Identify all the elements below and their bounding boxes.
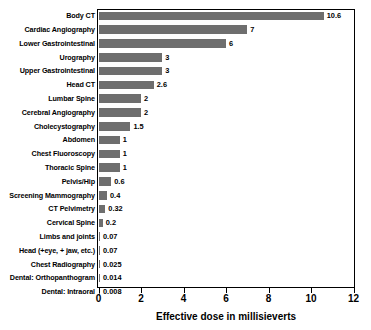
category-label: Abdomen — [0, 136, 95, 143]
bar-row: Head (+eye, + jaw, etc.)0.07 — [0, 244, 371, 258]
bar-row: Chest Radiography0.025 — [0, 257, 371, 271]
bar — [99, 219, 103, 228]
x-tick-label: 0 — [96, 294, 102, 304]
bar-wrapper: 2 — [99, 92, 354, 106]
bar — [99, 108, 142, 117]
bar-row: Abdomen1 — [0, 133, 371, 147]
bar — [99, 150, 120, 159]
value-label: 3 — [165, 67, 169, 74]
category-label: Lower Gastrointestinal — [0, 40, 95, 47]
value-label: 3 — [165, 54, 169, 61]
value-label: 0.014 — [103, 274, 122, 281]
bar-row: Cholecystography1.5 — [0, 119, 371, 133]
value-label: 6 — [229, 40, 233, 47]
bar-chart: Body CT10.6Cardiac Angiography7Lower Gas… — [0, 0, 371, 330]
bar — [99, 205, 106, 214]
category-label: Lumbar Spine — [0, 95, 95, 102]
value-label: 0.2 — [106, 219, 116, 226]
bar-row: Pelvis/Hip0.6 — [0, 175, 371, 189]
bar-row: Head CT2.6 — [0, 78, 371, 92]
value-label: 1.5 — [133, 123, 143, 130]
bar — [99, 25, 248, 34]
bar-row: Cardiac Angiography7 — [0, 23, 371, 37]
bar-row: Dental: Orthopanthogram0.014 — [0, 271, 371, 285]
x-tick-label: 6 — [223, 294, 229, 304]
bar-wrapper: 2.6 — [99, 78, 354, 92]
value-label: 7 — [250, 26, 254, 33]
bar — [99, 67, 163, 76]
bar-wrapper: 1 — [99, 133, 354, 147]
category-label: Cardiac Angiography — [0, 26, 95, 33]
bar-row: Screening Mammography0.4 — [0, 188, 371, 202]
bar-row: Lower Gastrointestinal6 — [0, 37, 371, 51]
value-label: 0.4 — [110, 192, 120, 199]
bar-wrapper: 10.6 — [99, 9, 354, 23]
value-label: 1 — [123, 164, 127, 171]
bar — [99, 260, 101, 269]
category-label: Chest Radiography — [0, 261, 95, 268]
category-label: Cerebral Angiography — [0, 109, 95, 116]
bar — [99, 274, 101, 283]
value-label: 2 — [144, 95, 148, 102]
category-label: Screening Mammography — [0, 192, 95, 199]
bar — [99, 191, 108, 200]
bar-wrapper: 7 — [99, 23, 354, 37]
value-label: 2 — [144, 109, 148, 116]
bar-wrapper: 6 — [99, 37, 354, 51]
x-tick-label: 4 — [181, 294, 187, 304]
category-label: Body CT — [0, 12, 95, 19]
bar — [99, 246, 101, 255]
bar-wrapper: 0.014 — [99, 271, 354, 285]
category-label: Chest Fluoroscopy — [0, 150, 95, 157]
category-label: Upper Gastrointestinal — [0, 67, 95, 74]
value-label: 0.025 — [103, 261, 122, 268]
bar-row: Upper Gastrointestinal3 — [0, 64, 371, 78]
category-label: Dental: Orthopanthogram — [0, 274, 95, 281]
bar-wrapper: 3 — [99, 64, 354, 78]
value-label: 0.6 — [114, 178, 124, 185]
bar-row: Lumbar Spine2 — [0, 92, 371, 106]
x-tick-label: 2 — [138, 294, 144, 304]
category-label: Head (+eye, + jaw, etc.) — [0, 247, 95, 254]
bar-wrapper: 1.5 — [99, 119, 354, 133]
bar — [99, 122, 131, 131]
value-label: 2.6 — [157, 81, 167, 88]
bar — [99, 39, 227, 48]
bar-wrapper: 0.6 — [99, 175, 354, 189]
category-label: Limbs and joints — [0, 233, 95, 240]
bar-wrapper: 0.2 — [99, 216, 354, 230]
category-label: Thoracic Spine — [0, 164, 95, 171]
bar-row: Urography3 — [0, 50, 371, 64]
bar — [99, 163, 120, 172]
bar — [99, 12, 324, 21]
x-tick-label: 12 — [348, 294, 359, 304]
bar-wrapper: 0.32 — [99, 202, 354, 216]
value-label: 1 — [123, 136, 127, 143]
bar — [99, 94, 142, 103]
x-axis-title: Effective dose in millisieverts — [97, 312, 355, 322]
bar-wrapper: 1 — [99, 147, 354, 161]
bar-row: CT Pelvimetry0.32 — [0, 202, 371, 216]
bar-wrapper: 0.4 — [99, 188, 354, 202]
bar — [99, 53, 163, 62]
category-label: Dental: Intraoral — [0, 288, 95, 295]
bar-rows: Body CT10.6Cardiac Angiography7Lower Gas… — [0, 9, 371, 288]
value-label: 10.6 — [327, 12, 341, 19]
bar-row: Body CT10.6 — [0, 9, 371, 23]
bar-row: Thoracic Spine1 — [0, 161, 371, 175]
x-tick-label: 8 — [266, 294, 272, 304]
category-label: Urography — [0, 54, 95, 61]
bar — [99, 81, 154, 90]
x-tick-label: 10 — [305, 294, 316, 304]
category-label: Pelvis/Hip — [0, 178, 95, 185]
bar-row: Chest Fluoroscopy1 — [0, 147, 371, 161]
category-label: Head CT — [0, 81, 95, 88]
bar-row: Limbs and joints0.07 — [0, 230, 371, 244]
bar — [99, 177, 112, 186]
bar-wrapper: 1 — [99, 161, 354, 175]
value-label: 0.07 — [103, 233, 117, 240]
value-label: 1 — [123, 150, 127, 157]
bar-wrapper: 3 — [99, 50, 354, 64]
bar-wrapper: 2 — [99, 106, 354, 120]
value-label: 0.32 — [108, 205, 122, 212]
